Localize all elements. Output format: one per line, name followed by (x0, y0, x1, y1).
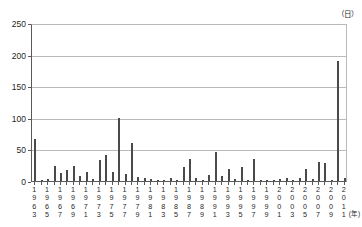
bar-1979 (137, 177, 139, 181)
x-tick-1986 (183, 182, 184, 185)
bar-1997 (253, 159, 255, 181)
x-tick-1976 (118, 182, 119, 185)
bar-1971 (86, 172, 88, 181)
bar-1992 (221, 176, 223, 181)
x-tick-2002 (286, 182, 287, 185)
bar-1984 (170, 178, 172, 181)
bar-1975 (112, 172, 114, 181)
bar-2000 (273, 180, 275, 181)
x-tick-2004 (299, 182, 300, 185)
bar-1980 (144, 178, 146, 181)
bar-1967 (60, 173, 62, 181)
x-tick-label-1997: 1997 (249, 186, 257, 220)
x-tick-1974 (105, 182, 106, 185)
bar-series (32, 25, 346, 181)
bar-1994 (234, 179, 236, 181)
bar-1985 (176, 180, 178, 181)
bar-1982 (157, 180, 159, 181)
y-tick-label-100: 100 (12, 115, 26, 124)
bar-1974 (105, 155, 107, 181)
bar-2005 (305, 169, 307, 181)
x-tick-1968 (66, 182, 67, 185)
bar-1995 (241, 167, 243, 181)
bar-1996 (247, 180, 249, 181)
x-tick-label-1963: 1963 (30, 186, 38, 220)
bar-1965 (47, 179, 49, 181)
plot-area (31, 24, 347, 182)
x-tick-label-1969: 1969 (69, 186, 77, 220)
bar-2004 (299, 178, 301, 181)
x-tick-label-2009: 2009 (327, 186, 335, 220)
x-tick-label-1981: 1981 (146, 186, 154, 220)
x-tick-label-1989: 1989 (198, 186, 206, 220)
x-tick-label-1977: 1977 (121, 186, 129, 220)
x-tick-label-2011: 2011 (340, 186, 348, 220)
x-tick-label-1979: 1979 (133, 186, 141, 220)
bar-1969 (73, 166, 75, 181)
x-tick-1978 (131, 182, 132, 185)
y-tick-label-200: 200 (12, 51, 26, 60)
x-tick-label-2003: 2003 (288, 186, 296, 220)
bar-1989 (202, 180, 204, 181)
x-tick-label-1985: 1985 (172, 186, 180, 220)
x-tick-1990 (208, 182, 209, 185)
bar-2003 (292, 180, 294, 181)
x-tick-2000 (273, 182, 274, 185)
y-axis: 050100150200250 (0, 24, 31, 182)
bar-1964 (41, 180, 43, 181)
bar-1973 (99, 160, 101, 181)
bar-1988 (195, 178, 197, 181)
bar-1972 (92, 179, 94, 181)
x-tick-1992 (221, 182, 222, 185)
bar-2011 (344, 178, 346, 181)
y-axis-unit: （日） (337, 11, 358, 19)
x-tick-1988 (195, 182, 196, 185)
x-tick-1984 (170, 182, 171, 185)
y-tick-label-150: 150 (12, 83, 26, 92)
x-tick-label-1993: 1993 (224, 186, 232, 220)
bar-1968 (66, 170, 68, 181)
bar-2007 (318, 162, 320, 181)
x-tick-label-2007: 2007 (314, 186, 322, 220)
x-tick-1964 (41, 182, 42, 185)
bar-1999 (266, 180, 268, 181)
bar-1966 (54, 166, 56, 181)
bar-2008 (324, 163, 326, 181)
bar-2010 (337, 61, 339, 181)
x-tick-2006 (312, 182, 313, 185)
x-tick-1980 (144, 182, 145, 185)
x-tick-label-1965: 1965 (43, 186, 51, 220)
x-tick-label-1987: 1987 (185, 186, 193, 220)
x-tick-1982 (157, 182, 158, 185)
x-tick-1994 (234, 182, 235, 185)
x-tick-label-1967: 1967 (56, 186, 64, 220)
bar-1993 (228, 169, 230, 181)
bar-2009 (331, 180, 333, 181)
x-tick-1998 (260, 182, 261, 185)
bar-1987 (189, 159, 191, 181)
bar-2006 (312, 179, 314, 181)
bar-2002 (286, 178, 288, 181)
x-tick-label-1999: 1999 (262, 186, 270, 220)
y-tick-label-50: 50 (17, 146, 26, 155)
bar-1963 (34, 139, 36, 181)
bar-1990 (208, 175, 210, 181)
x-tick-2010 (337, 182, 338, 185)
bar-1970 (79, 176, 81, 181)
x-tick-label-1971: 1971 (82, 186, 90, 220)
x-tick-label-1983: 1983 (159, 186, 167, 220)
bar-1983 (163, 180, 165, 181)
x-tick-1996 (247, 182, 248, 185)
x-tick-label-1995: 1995 (237, 186, 245, 220)
x-tick-1972 (92, 182, 93, 185)
bar-1978 (131, 143, 133, 181)
x-axis-labels: 1963196519671969197119731975197719791981… (31, 186, 347, 227)
x-tick-label-1975: 1975 (108, 186, 116, 220)
x-tick-2008 (324, 182, 325, 185)
y-tick-label-250: 250 (12, 20, 26, 29)
bar-2001 (279, 179, 281, 181)
x-axis-unit: (年) (349, 211, 360, 218)
bar-1981 (150, 179, 152, 181)
x-tick-label-2001: 2001 (275, 186, 283, 220)
bar-1976 (118, 118, 120, 181)
